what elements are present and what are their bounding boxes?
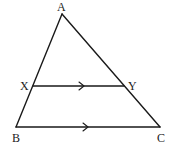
label-c: C <box>157 131 165 145</box>
label-y: Y <box>128 79 137 93</box>
label-a: A <box>57 0 66 14</box>
label-b: B <box>12 131 20 145</box>
segment-ab <box>16 14 62 127</box>
triangle-diagram: A X Y B C <box>0 0 173 149</box>
segment-ac <box>62 14 160 127</box>
label-x: X <box>20 79 29 93</box>
